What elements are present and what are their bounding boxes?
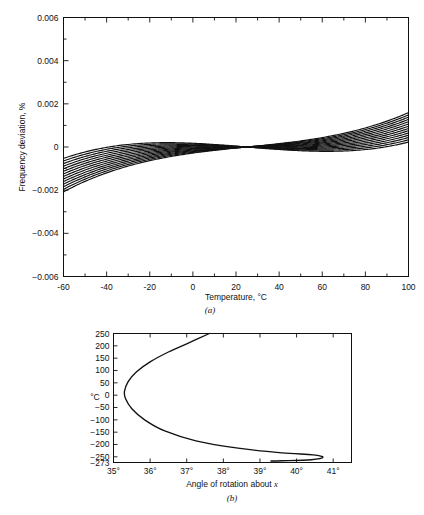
panel-b-curve-path bbox=[124, 334, 323, 462]
figure-container: -60-40-20020406080100 0.0060.0040.0020−0… bbox=[0, 0, 424, 515]
panel-b-x-tick-label: 40° bbox=[290, 466, 303, 476]
panel-b-y-tick-label: 200 bbox=[95, 341, 109, 351]
panel-b-x-axis-title-italic: x bbox=[273, 479, 278, 489]
panel-b-x-tick-label: 38° bbox=[217, 466, 230, 476]
panel-b-x-tick-label: 41° bbox=[327, 466, 340, 476]
panel-a-y-tick-label: −0.002 bbox=[32, 185, 59, 195]
panel-a-x-tick-label: 0 bbox=[191, 282, 196, 292]
panel-a-caption: (a) bbox=[205, 305, 216, 315]
panel-a-x-tick-label: 20 bbox=[231, 282, 241, 292]
panel-a-x-tick-label: 40 bbox=[274, 282, 284, 292]
panel-b-caption: (b) bbox=[227, 493, 238, 503]
panel-b-y-tick-label: 0 bbox=[105, 390, 110, 400]
panel-a-y-axis-title: Frequency deviation, % bbox=[17, 102, 27, 191]
panel-a-x-tick-label: 100 bbox=[401, 282, 415, 292]
panel-a-y-tick-label: −0.004 bbox=[32, 228, 59, 238]
panel-a: -60-40-20020406080100 0.0060.0040.0020−0… bbox=[17, 13, 416, 316]
panel-a-y-tick-label: −0.006 bbox=[32, 272, 59, 282]
panel-b-y-tick-label: −150 bbox=[90, 427, 109, 437]
panel-b-y-tick-label: 150 bbox=[95, 353, 109, 363]
panel-b-y-tick-label: 100 bbox=[95, 365, 109, 375]
panel-a-x-tick-label: -40 bbox=[100, 282, 113, 292]
panel-b-x-tick-labels: 35°36°37°38°39°40°41° bbox=[107, 466, 340, 476]
panel-a-y-tick-label: 0.002 bbox=[37, 99, 59, 109]
panel-a-y-tick-label: 0 bbox=[54, 142, 59, 152]
figure-svg: -60-40-20020406080100 0.0060.0040.0020−0… bbox=[0, 0, 424, 515]
panel-a-y-ticks bbox=[64, 18, 69, 277]
panel-a-y-tick-labels: 0.0060.0040.0020−0.002−0.004−0.006 bbox=[32, 13, 59, 282]
panel-a-curves bbox=[64, 113, 409, 192]
panel-a-y-tick-label: 0.004 bbox=[37, 56, 59, 66]
panel-b-x-tick-label: 37° bbox=[180, 466, 193, 476]
panel-b-y-tick-label: 50 bbox=[100, 378, 110, 388]
panel-b-curve bbox=[124, 334, 323, 462]
panel-a-y-tick-label: 0.006 bbox=[37, 13, 59, 23]
panel-b-x-tick-label: 39° bbox=[254, 466, 267, 476]
panel-b-y-tick-label: −200 bbox=[90, 439, 109, 449]
panel-b-y-ticks bbox=[114, 334, 118, 463]
panel-a-x-tick-label: -20 bbox=[144, 282, 157, 292]
panel-a-x-tick-label: 60 bbox=[318, 282, 328, 292]
panel-b-y-tick-label: 250 bbox=[95, 329, 109, 339]
panel-b-y-tick-label: −50 bbox=[95, 402, 110, 412]
panel-b-x-axis-title: Angle of rotation about x bbox=[186, 479, 278, 489]
panel-b-x-ticks bbox=[114, 334, 334, 463]
panel-b: 35°36°37°38°39°40°41° 250200150100500−50… bbox=[90, 329, 351, 504]
panel-b-x-tick-label: 36° bbox=[144, 466, 157, 476]
panel-b-y-tick-label: −100 bbox=[90, 415, 109, 425]
panel-a-x-tick-label: -60 bbox=[57, 282, 70, 292]
panel-a-x-tick-labels: -60-40-20020406080100 bbox=[57, 282, 416, 292]
panel-a-x-tick-label: 80 bbox=[361, 282, 371, 292]
panel-b-y-axis-title: °C bbox=[90, 392, 100, 402]
panel-b-frame bbox=[114, 334, 352, 463]
panel-b-x-axis-title-text: Angle of rotation about bbox=[186, 479, 274, 489]
panel-a-x-axis-title: Temperature, °C bbox=[205, 292, 267, 302]
panel-b-y-tick-label: −273 bbox=[90, 458, 109, 468]
panel-a-curve bbox=[64, 113, 409, 192]
